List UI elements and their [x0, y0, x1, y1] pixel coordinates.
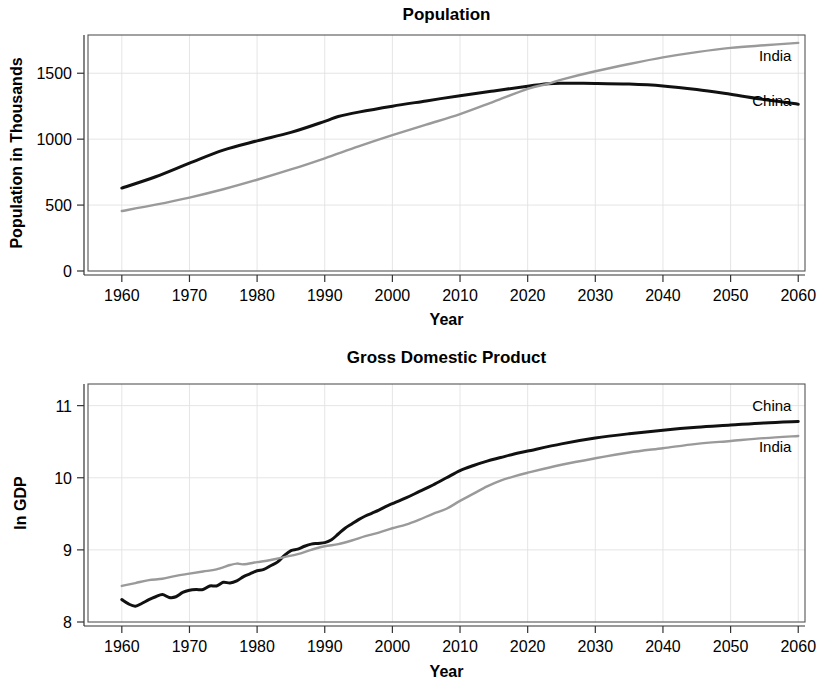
gdp-chart-group: Gross Domestic Product196019701980199020… — [12, 348, 816, 680]
x-tick-label: 1970 — [172, 638, 208, 655]
x-tick-label: 1960 — [104, 638, 140, 655]
y-axis-title: Population in Thousands — [8, 57, 25, 248]
population-chart-panel: Population196019701980199020002010202020… — [0, 0, 819, 343]
x-tick-label: 2020 — [510, 638, 546, 655]
plot-background — [88, 35, 805, 271]
x-tick-label: 1970 — [172, 287, 208, 304]
x-tick-label: 2000 — [375, 287, 411, 304]
x-tick-label: 2060 — [780, 287, 816, 304]
x-tick-label: 1960 — [104, 287, 140, 304]
x-tick-label: 2000 — [375, 638, 411, 655]
x-tick-label: 1990 — [307, 287, 343, 304]
y-tick-label: 1500 — [36, 65, 72, 82]
y-tick-label: 500 — [45, 197, 72, 214]
x-tick-label: 2050 — [713, 638, 749, 655]
chart-title: Gross Domestic Product — [347, 348, 547, 367]
plot-background — [88, 384, 805, 622]
gdp-chart-panel: Gross Domestic Product196019701980199020… — [0, 343, 819, 686]
chart-title: Population — [403, 5, 491, 24]
x-tick-label: 1990 — [307, 638, 343, 655]
y-axis-title: ln GDP — [12, 476, 29, 530]
x-tick-label: 1980 — [239, 287, 275, 304]
x-tick-label: 2010 — [442, 287, 478, 304]
x-tick-label: 2040 — [645, 287, 681, 304]
x-axis-title: Year — [430, 311, 464, 328]
series-label-india: India — [759, 438, 792, 455]
y-tick-label: 11 — [55, 398, 72, 415]
y-tick-label: 0 — [63, 263, 72, 280]
series-label-india: India — [759, 47, 792, 64]
x-tick-label: 2050 — [713, 287, 749, 304]
y-tick-label: 10 — [54, 470, 72, 487]
population-chart-group: Population196019701980199020002010202020… — [8, 5, 816, 328]
series-label-china: China — [752, 397, 792, 414]
x-tick-label: 2010 — [442, 638, 478, 655]
chart-page: Population196019701980199020002010202020… — [0, 0, 819, 686]
x-tick-label: 1980 — [239, 638, 275, 655]
series-label-china: China — [752, 92, 792, 109]
y-tick-label: 9 — [63, 542, 72, 559]
x-tick-label: 2030 — [578, 638, 614, 655]
y-tick-label: 1000 — [36, 131, 72, 148]
x-tick-label: 2040 — [645, 638, 681, 655]
x-tick-label: 2060 — [780, 638, 816, 655]
x-axis-title: Year — [430, 663, 464, 680]
gdp-chart-svg: Gross Domestic Product196019701980199020… — [0, 343, 819, 686]
x-tick-label: 2020 — [510, 287, 546, 304]
x-tick-label: 2030 — [578, 287, 614, 304]
population-chart-svg: Population196019701980199020002010202020… — [0, 0, 819, 343]
y-tick-label: 8 — [63, 614, 72, 631]
